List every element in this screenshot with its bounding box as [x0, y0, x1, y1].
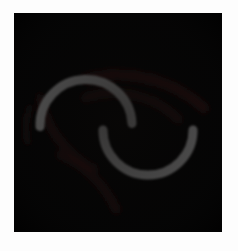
arc-visualization-svg	[14, 13, 222, 232]
figure-frame: Dark square image panel with two gray ar…	[0, 0, 238, 251]
screenshot-viewport: Dark square image panel with two gray ar…	[0, 0, 238, 251]
panel-vignette	[14, 13, 222, 232]
image-panel[interactable]	[14, 13, 222, 232]
